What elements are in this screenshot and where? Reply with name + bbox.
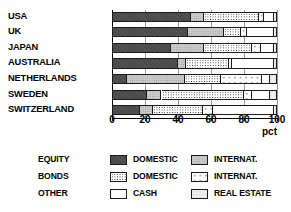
x-tick-label: 20: [139, 114, 150, 125]
bar-segment-bonds-domestic: [186, 58, 229, 68]
x-tick-label: 100: [269, 114, 286, 125]
bar-segment-cash: [264, 12, 274, 22]
bar-row: [112, 74, 277, 84]
x-tick-label: 40: [172, 114, 183, 125]
bar-segment-equity-international: [127, 74, 185, 84]
bar-segment-equity-domestic: [112, 90, 147, 100]
legend-label-bonds-international[interactable]: INTERNAT.: [214, 171, 257, 181]
plot-wrapper: USAUKJAPANAUSTRALIANETHERLANDSSWEDENSWIT…: [0, 8, 291, 124]
x-tick-label: 0: [109, 114, 115, 125]
legend-swatch-equity-domestic[interactable]: [110, 155, 127, 165]
legend-group-label: BONDS: [38, 171, 69, 181]
legend-row: OTHERCASHREAL ESTATE: [0, 186, 291, 203]
bar-segment-real-estate: [274, 58, 277, 68]
legend-label-bonds-domestic[interactable]: DOMESTIC: [133, 171, 178, 181]
category-label: SWEDEN: [8, 87, 48, 103]
legend-swatch-cash[interactable]: [110, 189, 127, 199]
bar-segment-equity-international: [171, 43, 204, 53]
bar-segment-real-estate: [270, 74, 277, 84]
bar-segment-bonds-domestic: [204, 12, 258, 22]
plot-area: [112, 10, 277, 118]
bar-segment-cash: [232, 58, 273, 68]
bar-segment-bonds-domestic: [162, 90, 245, 100]
category-label-column: USAUKJAPANAUSTRALIANETHERLANDSSWEDENSWIT…: [8, 8, 110, 118]
bar-segment-equity-international: [147, 90, 162, 100]
category-label: AUSTRALIA: [8, 55, 60, 71]
legend-row: EQUITYDOMESTICINTERNAT.: [0, 152, 291, 169]
bar-segment-bonds-international: [244, 90, 252, 100]
bar-segment-cash: [262, 74, 270, 84]
bar-segment-cash: [247, 27, 273, 37]
bar-segment-bonds-international: [221, 74, 262, 84]
x-tick-label: 80: [238, 114, 249, 125]
bar-row: [112, 58, 277, 68]
legend-swatch-bonds-domestic[interactable]: [110, 172, 127, 182]
legend-swatch-real-estate[interactable]: [191, 189, 208, 199]
bar-segment-bonds-domestic: [224, 27, 241, 37]
legend-group-label: EQUITY: [38, 154, 69, 164]
legend-label-real-estate[interactable]: REAL ESTATE: [214, 188, 271, 198]
bar-segment-equity-international: [178, 58, 186, 68]
bar-segment-bonds-international: [241, 27, 248, 37]
category-label: NETHERLANDS: [8, 71, 77, 87]
bar-segment-equity-domestic: [112, 12, 191, 22]
x-axis-unit-label: pct: [262, 126, 277, 137]
category-label: UK: [8, 24, 21, 40]
bar-row: [112, 43, 277, 53]
legend-label-equity-domestic[interactable]: DOMESTIC: [133, 154, 178, 164]
legend-swatch-bonds-international[interactable]: [191, 172, 208, 182]
legend-group-label: OTHER: [38, 188, 68, 198]
bar-row: [112, 12, 277, 22]
legend-swatch-equity-international[interactable]: [191, 155, 208, 165]
category-label: USA: [8, 9, 27, 25]
legend-label-equity-international[interactable]: INTERNAT.: [214, 154, 257, 164]
bar-segment-equity-international: [191, 12, 204, 22]
legend-row: BONDSDOMESTICINTERNAT.: [0, 169, 291, 186]
bar-segment-bonds-domestic: [204, 43, 252, 53]
bar-segment-bonds-international: [252, 43, 260, 53]
bar-segment-equity-international: [188, 27, 224, 37]
bar-row: [112, 27, 277, 37]
bar-segment-cash: [252, 90, 270, 100]
bar-segment-equity-domestic: [112, 27, 188, 37]
bar-segment-equity-domestic: [112, 58, 178, 68]
bar-segment-real-estate: [274, 43, 277, 53]
bar-segment-real-estate: [270, 90, 277, 100]
bar-segment-real-estate: [274, 12, 277, 22]
bar-segment-equity-domestic: [112, 74, 127, 84]
bar-segment-bonds-domestic: [185, 74, 221, 84]
category-label: JAPAN: [8, 40, 38, 56]
bar-segment-cash: [261, 43, 274, 53]
x-tick-label: 60: [205, 114, 216, 125]
bar-row: [112, 90, 277, 100]
gridline: [277, 10, 278, 118]
bar-segment-equity-domestic: [112, 43, 171, 53]
legend-label-cash[interactable]: CASH: [133, 188, 157, 198]
stacked-bar-chart: USAUKJAPANAUSTRALIANETHERLANDSSWEDENSWIT…: [0, 0, 291, 212]
bar-segment-real-estate: [274, 27, 277, 37]
category-label: SWITZERLAND: [8, 102, 74, 118]
chart-legend: EQUITYDOMESTICINTERNAT.BONDSDOMESTICINTE…: [0, 152, 291, 210]
